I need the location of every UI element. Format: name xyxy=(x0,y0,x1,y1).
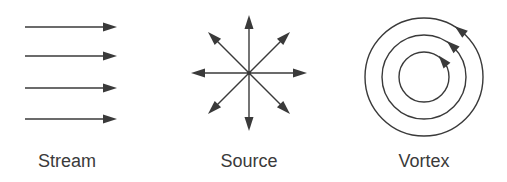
flow-types-diagram: Stream xyxy=(0,0,507,182)
stream-arrow xyxy=(25,84,117,93)
source-arrow-up-right xyxy=(246,29,293,76)
source-label: Source xyxy=(220,151,277,171)
source-arrow-right xyxy=(249,69,307,78)
source-arrow-down xyxy=(245,73,254,131)
stream-arrows-icon xyxy=(25,23,117,124)
vortex-arrowhead-inner xyxy=(435,53,450,69)
stream-arrow xyxy=(25,115,117,124)
source-arrow-up xyxy=(245,15,254,73)
stream-arrow xyxy=(25,23,117,32)
source-panel: Source xyxy=(191,15,307,171)
source-arrow-left xyxy=(191,69,249,78)
stream-arrow xyxy=(25,52,117,61)
source-arrow-down-left xyxy=(205,70,252,117)
stream-label: Stream xyxy=(38,151,96,171)
source-arrows-icon xyxy=(191,15,307,131)
source-arrow-down-right xyxy=(246,70,293,117)
source-arrow-up-left xyxy=(205,29,252,76)
vortex-panel: Vortex xyxy=(365,18,483,171)
vortex-circles-icon xyxy=(365,18,483,136)
stream-panel: Stream xyxy=(25,23,117,172)
vortex-label: Vortex xyxy=(398,151,449,171)
